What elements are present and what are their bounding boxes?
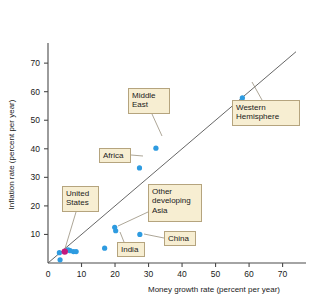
leader-line-china	[144, 234, 164, 238]
x-tick-label: 70	[278, 269, 288, 279]
y-tick-label: 20	[31, 201, 41, 211]
callout-other-developing-asia: Other developing Asia	[148, 184, 202, 222]
callout-united-states: United States	[62, 186, 99, 212]
data-point	[57, 250, 62, 255]
leader-line-africa	[131, 155, 143, 156]
callout-western-hemisphere: Western Hemisphere	[232, 100, 300, 126]
data-point-africa	[137, 165, 142, 170]
x-tick-label: 0	[46, 269, 51, 279]
scatter-chart: 10203040506070010203040506070Money growt…	[0, 0, 322, 304]
leader-line-india	[120, 232, 124, 242]
data-point-india	[102, 246, 107, 251]
y-tick-label: 70	[31, 58, 41, 68]
data-point-china	[137, 232, 142, 237]
leader-line-other-developing-asia	[118, 212, 148, 226]
data-point-middle-east	[153, 146, 158, 151]
y-tick-label: 40	[31, 144, 41, 154]
callout-middle-east: Middle East	[128, 88, 170, 114]
data-point	[74, 249, 79, 254]
data-point	[57, 257, 62, 262]
x-tick-label: 30	[144, 269, 154, 279]
y-tick-label: 60	[31, 87, 41, 97]
leader-line-middle-east	[152, 114, 162, 136]
callout-africa: Africa	[99, 148, 131, 163]
leader-line-united-states	[64, 212, 76, 252]
x-tick-label: 40	[177, 269, 187, 279]
x-tick-label: 60	[244, 269, 254, 279]
y-axis-title: Inflation rate (percent per year)	[7, 99, 16, 209]
x-axis-title: Money growth rate (percent per year)	[148, 285, 280, 294]
callout-china: China	[164, 231, 196, 246]
callout-india: India	[117, 242, 145, 257]
x-tick-label: 20	[110, 269, 120, 279]
data-points	[57, 95, 245, 262]
y-tick-label: 30	[31, 172, 41, 182]
x-tick-label: 10	[77, 269, 87, 279]
plot-canvas: 10203040506070010203040506070Money growt…	[0, 0, 322, 304]
y-tick-label: 50	[31, 115, 41, 125]
x-tick-label: 50	[211, 269, 221, 279]
data-point-united-states	[62, 248, 68, 254]
data-point-other-developing-asia	[113, 228, 118, 233]
y-tick-label: 10	[31, 229, 41, 239]
